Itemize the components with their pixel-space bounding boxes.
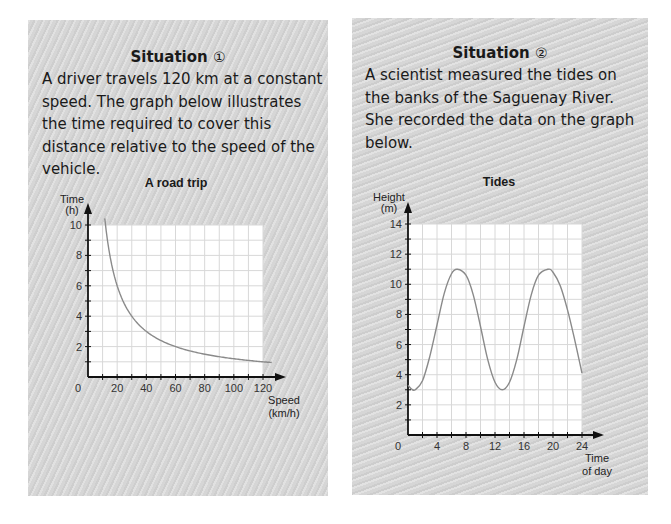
tides-x-tick-label: 4 [434, 440, 440, 452]
tides-y-axis-label: (m) [381, 202, 398, 214]
tides-y-tick-label: 4 [396, 369, 402, 381]
tides-x-tick-label: 16 [518, 440, 530, 452]
tides-x-axis-label: of day [582, 465, 612, 477]
tides-x-tick-label: 12 [489, 440, 501, 452]
tides-x-axis-label: Time [585, 452, 609, 464]
tides-x-tick-label: 24 [576, 440, 588, 452]
tides-y-tick-label: 6 [396, 339, 402, 351]
tides-y-tick-label: 10 [390, 278, 402, 290]
tides-x-tick-label: 20 [547, 440, 559, 452]
tides-x-tick-label: 8 [463, 440, 469, 452]
tides-y-axis-arrow-icon [404, 202, 412, 213]
tides-y-tick-label: 2 [396, 399, 402, 411]
tides-x-axis-arrow-icon [593, 431, 604, 439]
tides-y-tick-label: 14 [390, 218, 402, 230]
tides-origin-label: 0 [395, 440, 401, 452]
tides-chart: Tides481216202424681012140Height(m)Timeo… [0, 0, 671, 524]
tides-y-tick-label: 12 [390, 248, 402, 260]
tides-chart-title: Tides [483, 175, 515, 189]
tides-y-tick-label: 8 [396, 308, 402, 320]
